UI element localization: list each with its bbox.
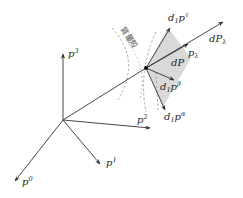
line-origin-to-point bbox=[63, 68, 146, 120]
label-dP-lambda: dPλ bbox=[209, 34, 226, 46]
label-p0: p0 bbox=[22, 176, 33, 187]
origin-axes bbox=[15, 54, 150, 181]
label-p3: p3 bbox=[68, 48, 79, 59]
shaded-region-dP bbox=[146, 28, 191, 107]
event-point bbox=[144, 66, 148, 70]
label-p-lambda: pλ bbox=[188, 48, 199, 60]
label-p2: p2 bbox=[137, 114, 148, 125]
label-d1p-alpha: d1pα bbox=[164, 111, 185, 124]
diagram-canvas: p3 p0 p1 p2 dPλ pλ d1pτ d1pβ d1pα dP 質量殻 bbox=[0, 0, 243, 198]
label-p1: p1 bbox=[106, 157, 117, 168]
label-dP-region: dP bbox=[171, 58, 184, 68]
label-d1p-beta: d1pβ bbox=[160, 81, 181, 94]
axis-p1 bbox=[63, 120, 100, 164]
axis-p0 bbox=[15, 120, 63, 181]
label-d1p-tau: d1pτ bbox=[168, 12, 189, 25]
